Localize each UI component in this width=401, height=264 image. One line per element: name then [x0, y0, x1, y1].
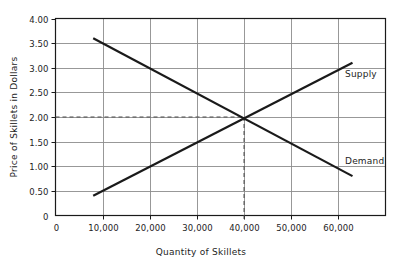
y-axis-tick-label: 4.00 [29, 15, 48, 25]
x-axis-tick-label: 0 [54, 223, 60, 233]
chart-canvas: 00.501.001.502.002.503.003.504.00 010,00… [0, 0, 401, 264]
supply-demand-chart: 00.501.001.502.002.503.003.504.00 010,00… [0, 0, 401, 264]
y-axis-tick-label: 1.50 [29, 138, 48, 148]
y-axis-tick-label: 1.00 [29, 162, 48, 172]
x-axis-title: Quantity of Skillets [156, 247, 247, 257]
y-axis-tick-label: 2.00 [29, 113, 48, 123]
x-axis-tick-label: 30,000 [182, 223, 212, 233]
x-axis-tick-label: 10,000 [88, 223, 118, 233]
x-axis-tick-label: 20,000 [135, 223, 165, 233]
y-axis-tick-label: 0 [43, 212, 49, 222]
x-axis-tick-label: 60,000 [323, 223, 353, 233]
y-axis-tick-label: 3.50 [29, 39, 48, 49]
series-label-supply: Supply [345, 69, 377, 79]
x-axis-tick-label: 50,000 [276, 223, 306, 233]
series-label-demand: Demand [345, 156, 384, 166]
x-axis-tick-label: 40,000 [229, 223, 259, 233]
y-axis-tick-label: 3.00 [29, 64, 48, 74]
y-axis-tick-label: 0.50 [29, 187, 48, 197]
y-axis-title: Price of Skillets in Dollars [9, 57, 19, 178]
y-axis-tick-label: 2.50 [29, 88, 48, 98]
y-axis-tick-labels: 00.501.001.502.002.503.003.504.00 [29, 15, 48, 222]
